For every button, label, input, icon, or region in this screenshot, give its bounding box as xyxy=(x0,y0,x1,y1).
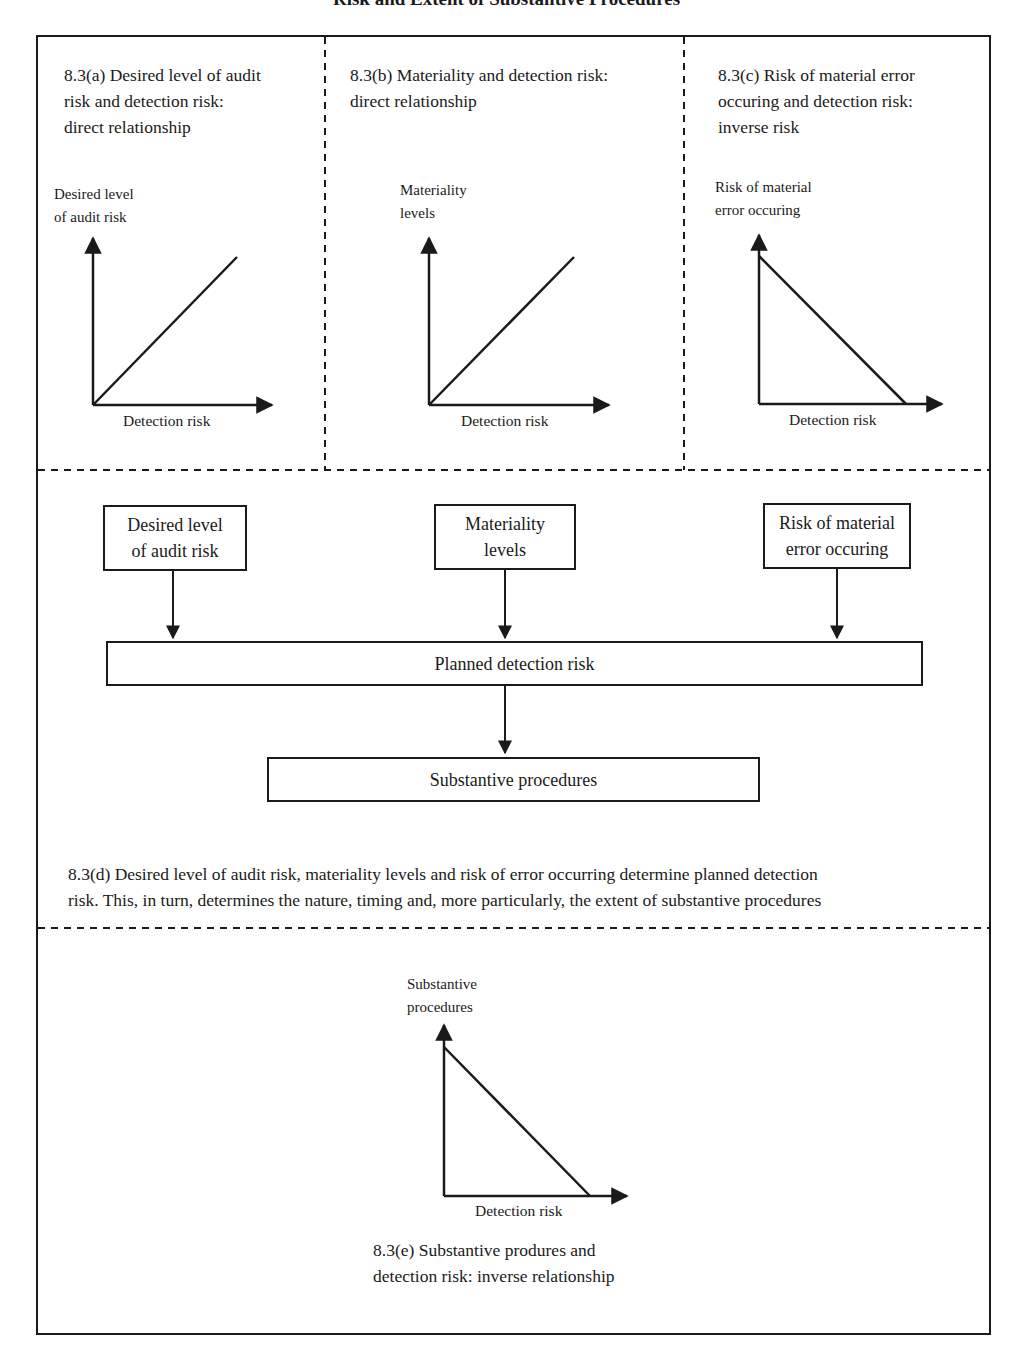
ylabel-line: Materiality xyxy=(400,179,467,202)
caption-line: inverse risk xyxy=(718,114,915,140)
caption-line: 8.3(b) Materiality and detection risk: xyxy=(350,62,608,88)
ylabel-line: Risk of material xyxy=(715,176,812,199)
panel-e-xlabel: Detection risk xyxy=(475,1202,562,1220)
box-line: levels xyxy=(465,537,545,563)
box-line: error occuring xyxy=(779,536,895,562)
ylabel-line: procedures xyxy=(407,996,477,1019)
box-label: Substantive procedures xyxy=(430,767,597,793)
panel-e-caption: 8.3(e) Substantive produres and detectio… xyxy=(373,1237,615,1289)
panel-e-ylabel: Substantive procedures xyxy=(407,973,477,1019)
panel-c-caption: 8.3(c) Risk of material error occuring a… xyxy=(718,62,915,140)
ylabel-line: error occuring xyxy=(715,199,812,222)
caption-line: risk. This, in turn, determines the natu… xyxy=(68,887,978,913)
substantive-procedures-box: Substantive procedures xyxy=(267,757,760,802)
box-line: of audit risk xyxy=(127,538,222,564)
caption-line: direct relationship xyxy=(64,114,261,140)
panel-c-ylabel: Risk of material error occuring xyxy=(715,176,812,222)
ylabel-line: Substantive xyxy=(407,973,477,996)
panel-d-caption: 8.3(d) Desired level of audit risk, mate… xyxy=(68,861,978,913)
caption-line: direct relationship xyxy=(350,88,608,114)
caption-line: risk and detection risk: xyxy=(64,88,261,114)
ylabel-line: levels xyxy=(400,202,467,225)
input-box-audit-risk: Desired level of audit risk xyxy=(103,505,247,571)
input-box-material-error: Risk of material error occuring xyxy=(763,503,911,569)
caption-line: occuring and detection risk: xyxy=(718,88,915,114)
box-line: Desired level xyxy=(127,512,222,538)
caption-line: 8.3(c) Risk of material error xyxy=(718,62,915,88)
input-box-materiality: Materiality levels xyxy=(434,504,576,570)
panel-a-ylabel: Desired level of audit risk xyxy=(54,183,134,229)
caption-line: 8.3(a) Desired level of audit xyxy=(64,62,261,88)
chart-c-axes xyxy=(759,235,942,404)
caption-line: 8.3(d) Desired level of audit risk, mate… xyxy=(68,861,978,887)
planned-detection-risk-box: Planned detection risk xyxy=(106,641,923,686)
caption-line: detection risk: inverse relationship xyxy=(373,1263,615,1289)
panel-b-caption: 8.3(b) Materiality and detection risk: d… xyxy=(350,62,608,114)
chart-e-axes xyxy=(444,1025,627,1196)
panel-a-caption: 8.3(a) Desired level of audit risk and d… xyxy=(64,62,261,140)
chart-a-axes xyxy=(93,238,272,405)
panel-b-xlabel: Detection risk xyxy=(461,412,548,430)
ylabel-line: Desired level xyxy=(54,183,134,206)
panel-a-xlabel: Detection risk xyxy=(123,412,210,430)
box-line: Materiality xyxy=(465,511,545,537)
panel-b-ylabel: Materiality levels xyxy=(400,179,467,225)
ylabel-line: of audit risk xyxy=(54,206,134,229)
chart-b-axes xyxy=(429,238,609,405)
panel-c-xlabel: Detection risk xyxy=(789,411,876,429)
box-label: Planned detection risk xyxy=(435,651,595,677)
caption-line: 8.3(e) Substantive produres and xyxy=(373,1237,615,1263)
box-line: Risk of material xyxy=(779,510,895,536)
